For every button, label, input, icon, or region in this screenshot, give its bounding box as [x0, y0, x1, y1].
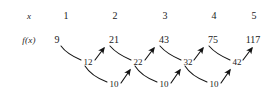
f-value: 43 [159, 35, 169, 45]
f-value: 117 [246, 35, 261, 45]
curve-12-to-10a [85, 66, 107, 82]
arrow-10b-to-32 [171, 70, 180, 83]
second-difference-value: 10 [210, 80, 219, 89]
arrow-12-to-21 [95, 48, 104, 60]
curve-22-to-10b [135, 66, 157, 82]
x-value: 2 [113, 11, 118, 21]
f-value: 75 [208, 35, 218, 45]
arrow-10c-to-42 [221, 70, 230, 83]
curve-75-to-42 [209, 46, 230, 60]
row-label-x: x [27, 12, 31, 21]
x-value: 3 [163, 11, 168, 21]
arrow-32-to-75 [194, 48, 203, 60]
x-value: 4 [212, 11, 217, 21]
difference-table-figure: x f(x) 1 2 3 4 5 9 21 43 75 117 12 22 32… [0, 0, 270, 94]
x-value: 5 [252, 11, 257, 21]
arrow-22-to-43 [145, 48, 154, 60]
curve-9-to-12 [61, 46, 81, 60]
curve-43-to-32 [160, 46, 181, 60]
f-value: 9 [55, 35, 60, 45]
first-difference-value: 22 [134, 58, 143, 67]
row-label-fx: f(x) [22, 36, 35, 45]
first-difference-value: 42 [233, 58, 242, 67]
f-value: 21 [109, 35, 119, 45]
second-difference-value: 10 [160, 80, 169, 89]
curve-32-to-10c [185, 66, 207, 82]
arrow-10a-to-22 [121, 70, 130, 83]
arrow-layer [0, 0, 270, 94]
second-difference-value: 10 [110, 80, 119, 89]
arrow-42-to-117 [243, 48, 252, 60]
x-value: 1 [64, 11, 69, 21]
curve-21-to-22 [110, 46, 131, 60]
first-difference-value: 32 [184, 58, 193, 67]
first-difference-value: 12 [84, 58, 93, 67]
